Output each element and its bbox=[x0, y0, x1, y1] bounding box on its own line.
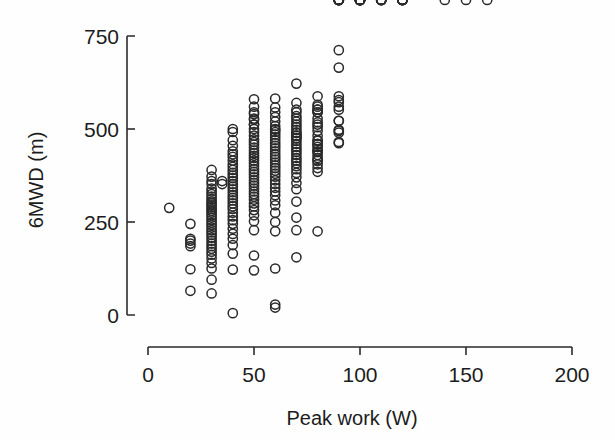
y-tick-label-750: 750 bbox=[84, 25, 119, 48]
data-point bbox=[186, 286, 195, 295]
data-point bbox=[334, 46, 343, 55]
data-point bbox=[292, 197, 301, 206]
x-axis bbox=[148, 347, 572, 355]
y-tick-label-500: 500 bbox=[84, 118, 119, 141]
data-point bbox=[186, 219, 195, 228]
data-point bbox=[207, 264, 216, 273]
data-point bbox=[483, 0, 492, 5]
x-tick-label-50: 50 bbox=[242, 363, 265, 386]
data-point bbox=[377, 0, 386, 5]
data-point bbox=[249, 226, 258, 235]
x-tick-label-150: 150 bbox=[448, 363, 483, 386]
data-point bbox=[249, 217, 258, 226]
data-point bbox=[355, 0, 364, 5]
scatter-plot-figure: 750 500 250 0 0 50 100 150 200 Peak work… bbox=[0, 0, 615, 440]
data-point bbox=[334, 63, 343, 72]
x-axis-title: Peak work (W) bbox=[286, 407, 417, 429]
x-tick-label-0: 0 bbox=[142, 363, 154, 386]
data-point bbox=[334, 0, 343, 5]
data-point bbox=[249, 251, 258, 260]
data-point bbox=[292, 79, 301, 88]
data-point bbox=[292, 213, 301, 222]
x-tick-label-100: 100 bbox=[342, 363, 377, 386]
data-point bbox=[440, 0, 449, 5]
data-point bbox=[398, 0, 407, 5]
data-point bbox=[207, 275, 216, 284]
data-point bbox=[271, 264, 280, 273]
data-point bbox=[228, 309, 237, 318]
data-point bbox=[186, 265, 195, 274]
data-point bbox=[271, 227, 280, 236]
data-point-layer bbox=[165, 0, 492, 318]
data-point bbox=[249, 266, 258, 275]
data-point bbox=[292, 226, 301, 235]
data-point bbox=[271, 94, 280, 103]
data-point bbox=[165, 203, 174, 212]
data-point bbox=[292, 185, 301, 194]
y-axis-title: 6MWD (m) bbox=[25, 132, 47, 229]
x-tick-label-200: 200 bbox=[554, 363, 589, 386]
plot-canvas: 750 500 250 0 0 50 100 150 200 Peak work… bbox=[0, 0, 615, 440]
data-point bbox=[228, 265, 237, 274]
y-tick-label-250: 250 bbox=[84, 211, 119, 234]
data-point bbox=[313, 227, 322, 236]
data-point bbox=[461, 0, 470, 5]
data-point bbox=[207, 289, 216, 298]
y-axis-line bbox=[127, 36, 135, 315]
data-point bbox=[334, 116, 343, 125]
y-axis bbox=[127, 36, 135, 315]
data-point bbox=[271, 217, 280, 226]
y-tick-label-0: 0 bbox=[107, 304, 119, 327]
data-point bbox=[292, 253, 301, 262]
